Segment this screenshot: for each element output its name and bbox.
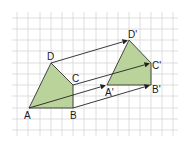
grid: [12, 12, 178, 136]
arrow-d: [51, 41, 127, 63]
label-d: D: [47, 51, 54, 62]
label-c: C: [72, 73, 79, 84]
label-d-prime: D': [128, 29, 137, 40]
label-a: A: [24, 110, 31, 121]
label-c-prime: C': [152, 60, 161, 71]
label-a-prime: A': [105, 87, 114, 98]
translation-diagram: A B C D A' B' C' D': [0, 0, 183, 142]
shape-image: [107, 40, 151, 85]
label-b: B: [70, 110, 77, 121]
label-b-prime: B': [152, 84, 161, 95]
